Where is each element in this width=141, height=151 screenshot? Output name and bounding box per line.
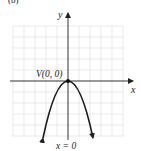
parabola-graph: (b) x y V(0, 0) x = 0	[0, 0, 141, 151]
x-axis-label: x	[130, 84, 136, 95]
vertex-point	[66, 79, 70, 83]
axis-of-symmetry-label: x = 0	[55, 141, 76, 151]
part-label: (b)	[8, 0, 19, 5]
y-axis-label: y	[57, 9, 63, 20]
vertex-label: V(0, 0)	[36, 69, 62, 80]
